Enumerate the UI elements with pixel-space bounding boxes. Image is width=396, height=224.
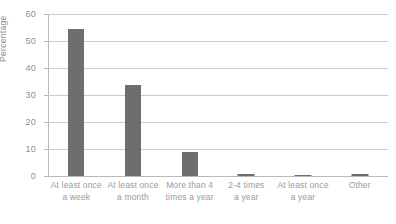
x-axis-label: At least oncea year [275,180,332,203]
tick-mark-0 [44,176,48,177]
x-axis-labels: At least oncea weekAt least oncea monthM… [48,180,388,224]
x-axis-label-line: At least once [48,180,105,192]
x-axis-label-line: Other [331,180,388,192]
bar [294,175,311,177]
bar [238,174,255,176]
y-tick-label-20: 20 [10,118,36,127]
x-axis-label-line: a year [218,192,275,204]
y-tick-label-40: 40 [10,64,36,73]
bar-slot [105,14,162,176]
chart-title-cutoff [14,0,384,2]
bar [351,174,368,176]
y-tick-label-0: 0 [10,172,36,181]
x-axis-label-line: More than 4 [161,180,218,192]
bar-slot [218,14,275,176]
bar-chart: Percentage 0102030405060 At least oncea … [0,0,396,224]
bar-slot [48,14,105,176]
bar-slot [331,14,388,176]
x-axis-label-line: a week [48,192,105,204]
bar [68,29,84,176]
x-axis-label-line: a year [275,192,332,204]
bar [182,152,198,176]
x-axis-label: Other [331,180,388,192]
bar [125,85,141,176]
x-axis-label: More than 4times a year [161,180,218,203]
x-axis-label-line: 2-4 times [218,180,275,192]
bar-slot [275,14,332,176]
y-tick-label-30: 30 [10,91,36,100]
x-axis-label-line: times a year [161,192,218,204]
x-axis-label: 2-4 timesa year [218,180,275,203]
y-tick-label-10: 10 [10,145,36,154]
bar-series [48,14,388,176]
gridline-0 [48,176,388,177]
x-axis-label-line: At least once [105,180,162,192]
y-tick-label-60: 60 [10,10,36,19]
y-axis-title: Percentage [0,16,8,62]
x-axis-label: At least oncea month [105,180,162,203]
x-axis-label-line: a month [105,192,162,204]
bar-slot [161,14,218,176]
y-tick-label-50: 50 [10,37,36,46]
x-axis-label-line: At least once [275,180,332,192]
x-axis-label: At least oncea week [48,180,105,203]
